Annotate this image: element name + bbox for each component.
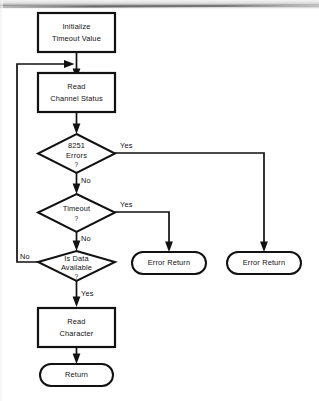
node-return: Return xyxy=(40,364,113,386)
arrowhead-into-read-character xyxy=(73,297,81,308)
error-return-8251-label: Error Return xyxy=(243,258,285,267)
node-timeout: Timeout ? xyxy=(38,194,115,232)
node-error-return-timeout: Error Return xyxy=(132,252,206,274)
node-read-character: Read Character xyxy=(38,308,115,347)
node-initialize: Initialize Timeout Value xyxy=(38,13,115,52)
connector-errors-yes-to-error-return xyxy=(115,153,264,244)
initialize-line-1: Initialize xyxy=(62,22,90,31)
edge-label-errors-yes: Yes xyxy=(120,141,133,150)
arrowhead-into-data-available-diamond xyxy=(73,241,81,252)
edge-label-data-yes: Yes xyxy=(81,289,94,298)
node-read-channel-status: Read Channel Status xyxy=(38,73,115,112)
errors-8251-line-3: ? xyxy=(75,161,79,168)
read-character-line-1: Read xyxy=(67,317,85,326)
timeout-line-1: Timeout xyxy=(63,204,90,213)
edge-label-errors-no: No xyxy=(81,176,91,185)
edge-label-timeout-no: No xyxy=(81,234,91,243)
read-character-line-2: Character xyxy=(60,329,94,338)
errors-8251-line-2: Errors xyxy=(66,151,87,160)
is-data-available-line-1: Is Data xyxy=(64,254,89,263)
flowchart-canvas: Initialize Timeout Value Read Channel St… xyxy=(0,0,319,401)
node-is-data-available: Is Data Available ? xyxy=(38,251,115,281)
initialize-box xyxy=(38,13,115,52)
read-channel-status-box xyxy=(38,73,115,112)
arrowhead-into-error-return-8251 xyxy=(260,242,268,253)
initialize-line-2: Timeout Value xyxy=(52,34,101,43)
flowchart-diagram: Initialize Timeout Value Read Channel St… xyxy=(0,0,319,401)
is-data-available-line-3: ? xyxy=(75,273,79,280)
read-channel-status-line-1: Read xyxy=(67,82,85,91)
read-character-box xyxy=(38,308,115,347)
errors-8251-line-1: 8251 xyxy=(68,141,85,150)
arrowhead-feedback-loop xyxy=(64,60,75,68)
node-error-return-8251: Error Return xyxy=(227,252,301,274)
timeout-diamond xyxy=(38,194,115,232)
is-data-available-line-2: Available xyxy=(61,263,92,272)
read-channel-status-line-2: Channel Status xyxy=(50,94,103,103)
node-errors-8251: 8251 Errors ? xyxy=(38,134,115,173)
connector-timeout-yes-to-error-return xyxy=(115,212,169,244)
arrowhead-into-errors-diamond xyxy=(73,124,81,135)
timeout-line-2: ? xyxy=(75,215,79,222)
edge-label-timeout-yes: Yes xyxy=(120,200,133,209)
return-label: Return xyxy=(65,370,88,379)
arrowhead-into-return xyxy=(73,354,81,365)
edge-label-data-no: No xyxy=(20,252,30,261)
arrowhead-into-timeout-diamond xyxy=(73,184,81,195)
error-return-timeout-label: Error Return xyxy=(148,258,190,267)
arrowhead-into-error-return-timeout xyxy=(165,242,173,253)
